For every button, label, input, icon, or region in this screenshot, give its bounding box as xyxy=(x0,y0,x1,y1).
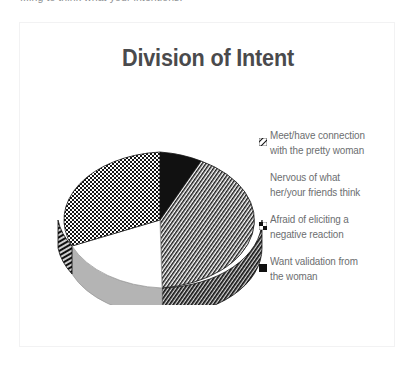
legend-item-afraid-reaction[interactable]: Afraid of eliciting a negative reaction xyxy=(259,213,399,242)
white-swatch-icon xyxy=(259,174,267,182)
legend-item-want-validation[interactable]: Want validation from the woman xyxy=(259,255,399,284)
diagonal-hatch-swatch-icon xyxy=(259,132,267,140)
page-title: Division of Intent xyxy=(31,45,384,72)
clipped-top-text: ...ing to think what your intentions. xyxy=(20,0,182,3)
legend-item-label: Nervous of what her/your friends think xyxy=(270,171,360,200)
pie-chart-svg xyxy=(30,105,270,305)
legend-item-nervous-friends[interactable]: Nervous of what her/your friends think xyxy=(259,171,399,200)
solid-black-swatch-icon xyxy=(259,258,267,266)
legend-item-label: Meet/have connection with the pretty wom… xyxy=(270,129,365,158)
checkerboard-swatch-icon xyxy=(259,216,267,224)
clipped-top-text-strip: ...ing to think what your intentions. xyxy=(0,0,409,9)
pie-chart xyxy=(30,105,270,305)
chart-legend: Meet/have connection with the pretty wom… xyxy=(259,129,399,297)
legend-item-meet-connection[interactable]: Meet/have connection with the pretty wom… xyxy=(259,129,399,158)
legend-item-label: Afraid of eliciting a negative reaction xyxy=(270,213,349,242)
chart-card: Division of Intent xyxy=(19,22,395,347)
legend-item-label: Want validation from the woman xyxy=(270,255,358,284)
